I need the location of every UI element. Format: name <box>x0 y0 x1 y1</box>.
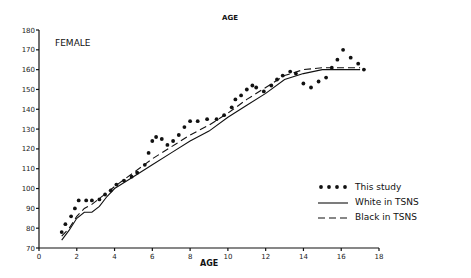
data-point <box>103 193 107 197</box>
data-point <box>143 163 147 167</box>
data-point <box>73 207 77 211</box>
y-tick-label: 170 <box>22 46 35 54</box>
x-tick-label: 8 <box>188 253 192 261</box>
x-tick-label: 0 <box>37 253 41 261</box>
x-tick-label: 12 <box>261 253 270 261</box>
growth-chart: AGE FEMALE 70809010011012013014015016017… <box>0 0 471 278</box>
y-tick-label: 160 <box>22 66 35 74</box>
y-tick-label: 180 <box>22 27 35 35</box>
y-tick-label: 90 <box>26 205 35 213</box>
data-point <box>98 198 102 202</box>
y-tick-label: 120 <box>22 145 35 153</box>
data-point <box>215 117 219 121</box>
data-point <box>60 230 64 234</box>
data-point <box>234 98 238 102</box>
series-white-line <box>62 70 360 241</box>
y-tick-label: 130 <box>22 126 35 134</box>
legend-label: White in TSNS <box>355 197 419 207</box>
data-point <box>177 133 181 137</box>
legend-label: Black in TSNS <box>355 212 417 222</box>
data-point <box>84 199 88 203</box>
data-point <box>317 80 321 84</box>
data-point <box>341 48 345 52</box>
data-point <box>239 94 243 98</box>
data-point <box>130 175 134 179</box>
data-point <box>69 214 73 218</box>
data-point <box>205 117 209 121</box>
x-tick-label: 18 <box>375 253 384 261</box>
data-point <box>356 62 360 66</box>
y-tick-label: 100 <box>22 185 35 193</box>
y-tick-label: 110 <box>22 165 35 173</box>
data-point <box>294 72 298 76</box>
data-point <box>183 125 187 129</box>
data-point <box>254 86 258 90</box>
x-tick-label: 14 <box>299 253 308 261</box>
data-point <box>288 70 292 74</box>
data-point <box>90 199 94 203</box>
data-point <box>171 139 175 143</box>
x-tick-label: 6 <box>150 253 155 261</box>
data-point <box>230 105 234 109</box>
data-point <box>147 151 151 155</box>
y-tick-label: 80 <box>26 225 35 233</box>
y-tick-label: 70 <box>26 245 35 253</box>
x-tick-label: 4 <box>112 253 117 261</box>
data-point <box>309 86 313 90</box>
y-tick-label: 140 <box>22 106 35 114</box>
data-point <box>196 119 200 123</box>
data-point <box>302 82 306 86</box>
data-point <box>262 90 266 94</box>
data-point <box>77 199 81 203</box>
data-point <box>115 183 119 187</box>
data-point <box>122 179 126 183</box>
data-point <box>275 78 279 82</box>
data-point <box>166 143 170 147</box>
data-point <box>349 56 353 60</box>
data-point <box>269 84 273 88</box>
y-axis: 708090100110120130140150160170180 <box>22 27 39 253</box>
data-point <box>160 137 164 141</box>
legend-label: This study <box>354 182 402 192</box>
data-point <box>330 66 334 70</box>
series-black-line <box>62 68 360 236</box>
data-point <box>109 189 113 193</box>
x-tick-label: 2 <box>75 253 79 261</box>
x-tick-label: 10 <box>223 253 232 261</box>
data-point <box>154 135 158 139</box>
data-point <box>135 171 139 175</box>
data-point <box>222 113 226 117</box>
legend: This studyWhite in TSNSBlack in TSNS <box>318 182 419 222</box>
data-point <box>64 222 68 226</box>
data-point <box>324 76 328 80</box>
data-point <box>281 74 285 78</box>
series-this-study-dots <box>60 48 366 234</box>
y-tick-label: 150 <box>22 86 35 94</box>
data-point <box>245 88 249 92</box>
data-point <box>188 119 192 123</box>
panel-label: FEMALE <box>55 38 91 48</box>
x-tick-label: 16 <box>337 253 346 261</box>
data-point <box>336 58 340 62</box>
data-point <box>362 68 366 72</box>
data-point <box>251 84 255 88</box>
data-point <box>150 139 154 143</box>
x-axis-label: AGE <box>200 259 218 268</box>
chart-title: AGE <box>222 14 238 22</box>
